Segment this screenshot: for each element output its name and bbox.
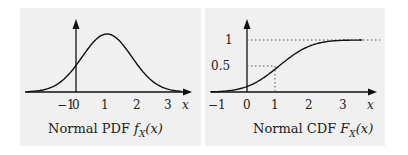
arrow-right-icon bbox=[368, 89, 377, 96]
cdf-panel: 1 0.5 −1 0 1 2 3 x Normal CDF FX(x) bbox=[205, 8, 385, 146]
pdf-tick-2: 2 bbox=[133, 98, 141, 112]
cdf-caption: Normal CDF FX(x) bbox=[253, 121, 373, 139]
cdf-tick-neg1: −1 bbox=[208, 98, 226, 112]
arrow-up-icon bbox=[244, 19, 251, 29]
cdf-curve bbox=[210, 40, 362, 92]
cdf-tick-0: 0 bbox=[243, 98, 251, 112]
cdf-ytick-1: 1 bbox=[225, 33, 233, 47]
cdf-tick-1: 1 bbox=[271, 98, 279, 112]
pdf-caption: Normal PDF fX(x) bbox=[48, 121, 163, 139]
cdf-ytick-05: 0.5 bbox=[211, 59, 230, 73]
pdf-tick-3: 3 bbox=[164, 98, 172, 112]
cdf-tick-2: 2 bbox=[305, 98, 313, 112]
cdf-tick-3: 3 bbox=[339, 98, 347, 112]
pdf-curve bbox=[26, 34, 181, 92]
cdf-axis-label: x bbox=[367, 98, 374, 112]
pdf-panel: −1 0 1 2 3 x Normal PDF fX(x) bbox=[20, 8, 201, 146]
pdf-tick-0: 0 bbox=[72, 98, 80, 112]
arrow-up-icon bbox=[73, 19, 80, 29]
pdf-axis-label: x bbox=[182, 98, 189, 112]
pdf-tick-1: 1 bbox=[101, 98, 109, 112]
arrow-right-icon bbox=[183, 89, 192, 96]
